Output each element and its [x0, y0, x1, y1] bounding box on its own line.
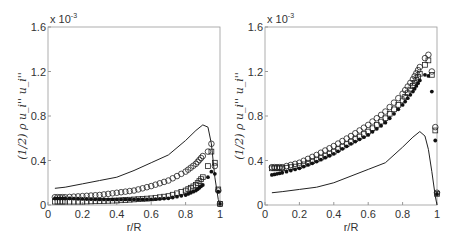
- marker-star: [336, 149, 340, 153]
- x-axis-label: r/R: [127, 221, 142, 233]
- y-axis-label: (1/2) ρ u_i'' u_i'': [233, 72, 246, 160]
- marker-star: [435, 192, 439, 196]
- marker-star: [179, 194, 183, 198]
- plot-left: 00.20.40.60.8100.40.81.21.6x 10-3r/R(1/2…: [16, 12, 223, 233]
- marker-star: [72, 197, 76, 201]
- y-tick-label: 0.8: [31, 110, 46, 122]
- x-tick-label: 0.8: [395, 208, 410, 220]
- marker-star: [427, 74, 431, 78]
- marker-circle: [212, 163, 218, 169]
- marker-star: [319, 158, 323, 162]
- marker-circle: [429, 69, 435, 75]
- marker-star: [162, 197, 166, 201]
- marker-square: [206, 164, 211, 169]
- marker-star: [149, 198, 153, 202]
- marker-star: [366, 133, 370, 137]
- marker-star: [323, 156, 327, 160]
- series-line: [55, 125, 220, 205]
- marker-star: [136, 198, 140, 202]
- x-tick-label: 0.2: [292, 208, 307, 220]
- marker-star: [141, 198, 145, 202]
- marker-star: [392, 112, 396, 116]
- marker-star: [401, 103, 405, 107]
- x-tick-label: 1: [434, 208, 440, 220]
- marker-star: [280, 171, 284, 175]
- y-axis-label: (1/2) ρ u_i'' u_i'': [16, 72, 29, 160]
- marker-star: [175, 195, 179, 199]
- y-tick-label: 0: [257, 199, 263, 211]
- marker-star: [201, 183, 205, 187]
- marker-star: [76, 197, 80, 201]
- marker-star: [216, 190, 220, 194]
- marker-star: [375, 127, 379, 131]
- x-tick-label: 1: [217, 208, 223, 220]
- x-axis-label: r/R: [344, 221, 359, 233]
- marker-star: [371, 130, 375, 134]
- marker-star: [302, 165, 306, 169]
- marker-star: [384, 121, 388, 125]
- marker-star: [285, 170, 289, 174]
- marker-star: [430, 90, 434, 94]
- marker-star: [111, 198, 115, 202]
- marker-circle: [426, 52, 432, 58]
- marker-star: [328, 154, 332, 158]
- marker-star: [132, 198, 136, 202]
- marker-circle: [170, 176, 176, 182]
- marker-star: [106, 198, 110, 202]
- marker-star: [171, 196, 175, 200]
- marker-star: [63, 196, 67, 200]
- marker-star: [145, 198, 149, 202]
- marker-star: [388, 116, 392, 120]
- x-tick-label: 0.2: [75, 208, 90, 220]
- marker-star: [423, 73, 427, 77]
- y-tick-label: 1.6: [248, 21, 263, 33]
- marker-star: [332, 152, 336, 156]
- marker-star: [154, 197, 158, 201]
- marker-star: [158, 197, 162, 201]
- marker-star: [167, 196, 171, 200]
- marker-star: [89, 197, 93, 201]
- marker-star: [358, 137, 362, 141]
- marker-star: [408, 93, 412, 97]
- marker-star: [128, 198, 132, 202]
- y-tick-label: 1.2: [248, 66, 263, 78]
- x-tick-label: 0.8: [178, 208, 193, 220]
- marker-star: [433, 139, 437, 143]
- marker-star: [85, 197, 89, 201]
- plot-right: 00.20.40.60.8100.40.81.21.6x 10-3r/R(1/2…: [233, 12, 440, 233]
- y-tick-label: 1.6: [31, 21, 46, 33]
- y-multiplier: x 10-3: [267, 12, 294, 25]
- x-tick-label: 0.4: [109, 208, 124, 220]
- y-multiplier: x 10-3: [50, 12, 77, 25]
- marker-star: [218, 202, 222, 206]
- marker-star: [396, 107, 400, 111]
- y-tick-label: 1.2: [31, 66, 46, 78]
- marker-star: [341, 147, 345, 151]
- marker-star: [124, 198, 128, 202]
- marker-star: [298, 166, 302, 170]
- marker-star: [98, 198, 102, 202]
- marker-star: [293, 168, 297, 172]
- marker-star: [210, 170, 214, 174]
- marker-star: [102, 198, 106, 202]
- marker-star: [349, 142, 353, 146]
- y-tick-label: 0.8: [248, 110, 263, 122]
- marker-star: [362, 135, 366, 139]
- marker-star: [289, 169, 293, 173]
- marker-circle: [174, 173, 180, 179]
- x-tick-label: 0.6: [144, 208, 159, 220]
- marker-star: [93, 197, 97, 201]
- marker-star: [403, 100, 407, 104]
- marker-circle: [179, 171, 185, 177]
- x-tick-label: 0.4: [326, 208, 341, 220]
- y-tick-label: 0.4: [31, 155, 46, 167]
- x-tick-label: 0.6: [361, 208, 376, 220]
- marker-star: [310, 161, 314, 165]
- marker-star: [68, 197, 72, 201]
- axes-frame: [48, 27, 220, 205]
- marker-star: [81, 197, 85, 201]
- marker-circle: [205, 149, 211, 155]
- marker-star: [345, 144, 349, 148]
- axes-frame: [265, 27, 437, 205]
- marker-star: [306, 163, 310, 167]
